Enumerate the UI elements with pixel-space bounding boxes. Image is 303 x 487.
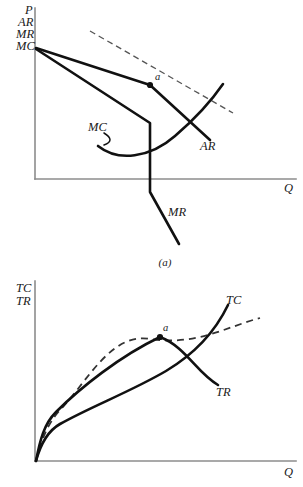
panel-a-mc-label: MC xyxy=(87,120,107,134)
economics-figure: P AR MR MC a AR MR MC Q (a) TC TR xyxy=(0,0,303,487)
panel-a-label-mc-axis: MC xyxy=(15,39,35,53)
panel-b-tc-curve xyxy=(36,305,228,461)
panel-a-q-axis-label: Q xyxy=(284,181,293,195)
panel-b: TC TR a TC TR Q xyxy=(16,281,296,479)
figure-svg: P AR MR MC a AR MR MC Q (a) TC TR xyxy=(0,0,303,487)
panel-b-q-axis-label: Q xyxy=(284,465,293,479)
panel-a-ar-curve xyxy=(36,48,210,140)
panel-b-tr-curve xyxy=(36,337,218,461)
panel-b-tr-label: TR xyxy=(216,385,231,399)
panel-b-tc-label: TC xyxy=(226,293,242,307)
panel-a-point-a-label: a xyxy=(155,71,160,82)
panel-b-label-tc-axis: TC xyxy=(16,281,32,295)
panel-a-mr-label: MR xyxy=(167,205,186,219)
panel-a-caption: (a) xyxy=(159,256,172,269)
panel-a-point-a-marker xyxy=(147,82,153,88)
panel-b-point-a-label: a xyxy=(163,322,168,333)
panel-a-mc-leader-line xyxy=(104,133,110,145)
panel-b-point-a-marker xyxy=(157,334,163,340)
panel-a-ar-label: AR xyxy=(199,139,216,153)
panel-b-label-tr-axis: TR xyxy=(16,294,31,308)
panel-a: P AR MR MC a AR MR MC Q (a) xyxy=(15,3,296,269)
